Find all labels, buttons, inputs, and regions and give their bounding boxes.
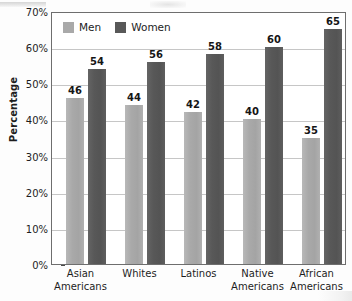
bar-men[interactable]: 40 — [243, 119, 261, 264]
x-tick-label-line: Whites — [110, 268, 169, 281]
bar-value-label: 60 — [267, 34, 281, 45]
bar-men[interactable]: 42 — [184, 112, 202, 264]
x-tick-label-line: Latinos — [169, 268, 228, 281]
x-tick-label-line: Asian — [51, 268, 110, 281]
y-tick-mark — [61, 265, 65, 266]
x-tick-label-line: African — [287, 268, 346, 281]
bar-group: 4654 — [52, 13, 111, 264]
x-tick-label: Whites — [110, 268, 169, 281]
x-tick-label: NativeAmericans — [228, 268, 287, 293]
bar-women[interactable]: 56 — [147, 62, 165, 264]
bar-fill — [265, 47, 283, 264]
legend-entry-women: Women — [115, 21, 171, 33]
legend-swatch-icon — [115, 22, 126, 33]
bar-group: 4456 — [111, 13, 170, 264]
bar-value-label: 42 — [186, 99, 200, 110]
bar-value-label: 35 — [304, 125, 318, 136]
chart-figure: Percentage 70%60%50%40%30%20%10%0% MenWo… — [0, 0, 352, 301]
y-tick-label: 10% — [14, 223, 48, 234]
legend-entry-men: Men — [63, 21, 101, 33]
bar-fill — [184, 112, 202, 264]
bars-layer: 46544456425840603565 — [52, 13, 345, 264]
bar-fill — [324, 29, 342, 264]
bar-group: 4060 — [229, 13, 288, 264]
bar-fill — [206, 54, 224, 264]
bar-value-label: 44 — [127, 92, 141, 103]
x-axis-tick-labels: AsianAmericansWhitesLatinosNativeAmerica… — [51, 268, 346, 301]
chart-legend: MenWomen — [63, 21, 171, 33]
bar-men[interactable]: 35 — [302, 138, 320, 265]
x-tick-label-line: Americans — [228, 281, 287, 294]
y-tick-label: 40% — [14, 115, 48, 126]
x-tick-label: AfricanAmericans — [287, 268, 346, 293]
x-tick-label-line: Native — [228, 268, 287, 281]
x-tick-label: Latinos — [169, 268, 228, 281]
y-tick-label: 60% — [14, 43, 48, 54]
bar-value-label: 40 — [245, 106, 259, 117]
bar-group: 4258 — [170, 13, 229, 264]
bar-value-label: 58 — [208, 41, 222, 52]
bar-fill — [302, 138, 320, 265]
y-tick-label: 70% — [14, 7, 48, 18]
bar-value-label: 56 — [149, 49, 163, 60]
y-axis-tick-labels: 70%60%50%40%30%20%10%0% — [14, 12, 48, 265]
bar-value-label: 46 — [68, 85, 82, 96]
y-tick-label: 30% — [14, 151, 48, 162]
legend-label: Men — [79, 21, 101, 33]
bar-fill — [125, 105, 143, 264]
x-tick-label-line: Americans — [51, 281, 110, 294]
scan-artifact-top-center — [150, 1, 186, 8]
bar-men[interactable]: 46 — [66, 98, 84, 264]
y-tick-label: 0% — [14, 260, 48, 271]
bar-fill — [243, 119, 261, 264]
y-tick-label: 20% — [14, 187, 48, 198]
x-tick-label-line: Americans — [287, 281, 346, 294]
bar-value-label: 54 — [90, 56, 104, 67]
bar-fill — [88, 69, 106, 264]
y-tick-label: 50% — [14, 79, 48, 90]
bar-women[interactable]: 65 — [324, 29, 342, 264]
legend-swatch-icon — [63, 22, 74, 33]
x-tick-label: AsianAmericans — [51, 268, 110, 293]
legend-label: Women — [131, 21, 171, 33]
bar-women[interactable]: 60 — [265, 47, 283, 264]
bar-value-label: 65 — [326, 16, 340, 27]
plot-area: MenWomen 46544456425840603565 — [51, 12, 346, 265]
bar-fill — [66, 98, 84, 264]
bar-men[interactable]: 44 — [125, 105, 143, 264]
bar-women[interactable]: 58 — [206, 54, 224, 264]
bar-fill — [147, 62, 165, 264]
bar-group: 3565 — [288, 13, 347, 264]
bar-women[interactable]: 54 — [88, 69, 106, 264]
